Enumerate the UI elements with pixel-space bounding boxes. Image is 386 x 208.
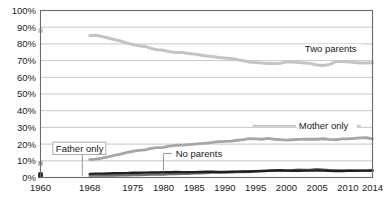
x-tick-label: 1975 bbox=[122, 182, 143, 193]
y-tick-label: 40% bbox=[17, 105, 37, 116]
family-structure-line-chart: 0%10%20%30%40%50%60%70%80%90%100% 196019… bbox=[0, 0, 386, 208]
x-axis-tick-labels: 1960196819751980198519901995200020052010… bbox=[30, 182, 383, 193]
x-tick-label: 1995 bbox=[245, 182, 266, 193]
x-tick-label: 2000 bbox=[276, 182, 297, 193]
annotation-label-mother-only: Mother only bbox=[299, 120, 349, 131]
y-tick-label: 60% bbox=[17, 72, 37, 83]
annotation-label-no-parents: No parents bbox=[176, 148, 223, 159]
x-tick-label: 2005 bbox=[307, 182, 328, 193]
series-annotations: Two parentsMother onlyFather onlyNo pare… bbox=[53, 43, 363, 176]
annotation-label-father-only: Father only bbox=[56, 143, 104, 154]
x-tick-label: 1985 bbox=[184, 182, 205, 193]
x-tick-label: 1990 bbox=[214, 182, 235, 193]
y-tick-label: 90% bbox=[17, 22, 37, 33]
annotation-label-two-parents: Two parents bbox=[305, 43, 357, 54]
y-tick-label: 100% bbox=[12, 5, 37, 16]
y-tick-label: 80% bbox=[17, 38, 37, 49]
x-tick-label: 1960 bbox=[30, 182, 51, 193]
y-tick-label: 50% bbox=[17, 88, 37, 99]
chart-container: 0%10%20%30%40%50%60%70%80%90%100% 196019… bbox=[0, 0, 386, 208]
x-tick-label: 2014 bbox=[362, 182, 383, 193]
y-tick-label: 70% bbox=[17, 55, 37, 66]
data-series bbox=[90, 35, 373, 175]
x-tick-label: 1968 bbox=[79, 182, 100, 193]
y-tick-label: 10% bbox=[17, 155, 37, 166]
x-tick-label: 2010 bbox=[337, 182, 358, 193]
x-tick-label: 1980 bbox=[153, 182, 174, 193]
y-tick-label: 20% bbox=[17, 139, 37, 150]
y-axis-tick-labels: 0%10%20%30%40%50%60%70%80%90%100% bbox=[12, 5, 37, 183]
y-tick-label: 30% bbox=[17, 122, 37, 133]
series-line-mother-only bbox=[90, 138, 373, 160]
